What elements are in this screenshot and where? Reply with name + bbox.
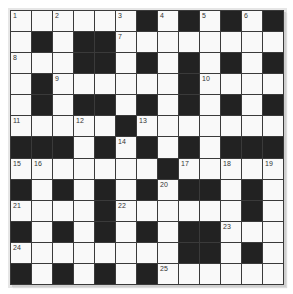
answer-cell[interactable] xyxy=(158,95,178,115)
answer-cell[interactable]: 11 xyxy=(11,116,31,136)
answer-cell[interactable]: 16 xyxy=(32,159,52,179)
answer-cell[interactable] xyxy=(116,243,136,263)
answer-cell[interactable] xyxy=(116,159,136,179)
answer-cell[interactable]: 14 xyxy=(116,137,136,157)
answer-cell[interactable]: 7 xyxy=(116,32,136,52)
answer-cell[interactable] xyxy=(74,11,94,31)
answer-cell[interactable] xyxy=(221,116,241,136)
answer-cell[interactable] xyxy=(263,222,283,242)
answer-cell[interactable] xyxy=(32,53,52,73)
answer-cell[interactable] xyxy=(242,116,262,136)
answer-cell[interactable]: 18 xyxy=(221,159,241,179)
answer-cell[interactable]: 23 xyxy=(221,222,241,242)
answer-cell[interactable]: 10 xyxy=(200,74,220,94)
answer-cell[interactable] xyxy=(200,116,220,136)
answer-cell[interactable] xyxy=(158,222,178,242)
answer-cell[interactable] xyxy=(179,116,199,136)
answer-cell[interactable] xyxy=(158,116,178,136)
answer-cell[interactable]: 21 xyxy=(11,201,31,221)
answer-cell[interactable] xyxy=(200,53,220,73)
answer-cell[interactable]: 4 xyxy=(158,11,178,31)
answer-cell[interactable] xyxy=(74,159,94,179)
answer-cell[interactable] xyxy=(179,264,199,284)
answer-cell[interactable] xyxy=(263,32,283,52)
answer-cell[interactable] xyxy=(11,95,31,115)
answer-cell[interactable] xyxy=(242,222,262,242)
answer-cell[interactable] xyxy=(242,95,262,115)
answer-cell[interactable] xyxy=(116,53,136,73)
answer-cell[interactable] xyxy=(116,180,136,200)
answer-cell[interactable] xyxy=(158,32,178,52)
answer-cell[interactable] xyxy=(221,264,241,284)
answer-cell[interactable] xyxy=(95,243,115,263)
answer-cell[interactable] xyxy=(116,95,136,115)
answer-cell[interactable] xyxy=(137,201,157,221)
answer-cell[interactable] xyxy=(74,264,94,284)
answer-cell[interactable]: 2 xyxy=(53,11,73,31)
answer-cell[interactable] xyxy=(53,116,73,136)
answer-cell[interactable] xyxy=(263,243,283,263)
answer-cell[interactable] xyxy=(200,95,220,115)
answer-cell[interactable]: 6 xyxy=(242,11,262,31)
answer-cell[interactable] xyxy=(158,201,178,221)
answer-cell[interactable] xyxy=(158,137,178,157)
answer-cell[interactable] xyxy=(221,74,241,94)
answer-cell[interactable] xyxy=(200,137,220,157)
answer-cell[interactable] xyxy=(53,32,73,52)
answer-cell[interactable] xyxy=(158,74,178,94)
answer-cell[interactable] xyxy=(221,201,241,221)
answer-cell[interactable] xyxy=(242,159,262,179)
answer-cell[interactable] xyxy=(137,74,157,94)
answer-cell[interactable] xyxy=(53,159,73,179)
answer-cell[interactable] xyxy=(200,201,220,221)
answer-cell[interactable]: 22 xyxy=(116,201,136,221)
answer-cell[interactable] xyxy=(158,243,178,263)
answer-cell[interactable] xyxy=(179,32,199,52)
answer-cell[interactable] xyxy=(263,116,283,136)
answer-cell[interactable] xyxy=(74,222,94,242)
answer-cell[interactable] xyxy=(263,201,283,221)
answer-cell[interactable] xyxy=(137,32,157,52)
answer-cell[interactable]: 1 xyxy=(11,11,31,31)
answer-cell[interactable] xyxy=(53,53,73,73)
answer-cell[interactable] xyxy=(53,95,73,115)
answer-cell[interactable] xyxy=(263,264,283,284)
answer-cell[interactable] xyxy=(158,53,178,73)
answer-cell[interactable] xyxy=(137,159,157,179)
answer-cell[interactable]: 20 xyxy=(158,180,178,200)
answer-cell[interactable] xyxy=(32,116,52,136)
answer-cell[interactable] xyxy=(32,264,52,284)
answer-cell[interactable] xyxy=(74,180,94,200)
answer-cell[interactable] xyxy=(179,201,199,221)
answer-cell[interactable] xyxy=(263,180,283,200)
answer-cell[interactable] xyxy=(200,264,220,284)
answer-cell[interactable] xyxy=(95,159,115,179)
answer-cell[interactable] xyxy=(116,222,136,242)
answer-cell[interactable] xyxy=(116,74,136,94)
answer-cell[interactable]: 17 xyxy=(179,159,199,179)
answer-cell[interactable] xyxy=(221,243,241,263)
answer-cell[interactable]: 5 xyxy=(200,11,220,31)
answer-cell[interactable] xyxy=(137,243,157,263)
answer-cell[interactable] xyxy=(95,116,115,136)
answer-cell[interactable] xyxy=(95,74,115,94)
answer-cell[interactable] xyxy=(242,32,262,52)
answer-cell[interactable] xyxy=(74,74,94,94)
answer-cell[interactable] xyxy=(116,264,136,284)
answer-cell[interactable]: 9 xyxy=(53,74,73,94)
answer-cell[interactable] xyxy=(74,137,94,157)
answer-cell[interactable] xyxy=(32,11,52,31)
answer-cell[interactable] xyxy=(11,74,31,94)
answer-cell[interactable] xyxy=(32,180,52,200)
answer-cell[interactable] xyxy=(242,53,262,73)
answer-cell[interactable]: 12 xyxy=(74,116,94,136)
answer-cell[interactable] xyxy=(221,180,241,200)
answer-cell[interactable]: 15 xyxy=(11,159,31,179)
answer-cell[interactable] xyxy=(32,201,52,221)
answer-cell[interactable]: 3 xyxy=(116,11,136,31)
answer-cell[interactable]: 8 xyxy=(11,53,31,73)
answer-cell[interactable] xyxy=(221,32,241,52)
answer-cell[interactable] xyxy=(242,74,262,94)
answer-cell[interactable] xyxy=(74,243,94,263)
answer-cell[interactable] xyxy=(11,32,31,52)
